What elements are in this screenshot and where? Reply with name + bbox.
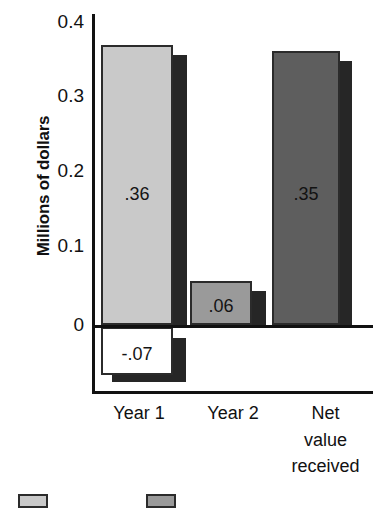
legend-swatch-icon-0	[18, 494, 48, 508]
bar-face-year-2: .06	[190, 281, 252, 325]
bar-label-year-2-positive: .06	[192, 297, 250, 315]
y-tick-label-0: 0	[30, 315, 84, 334]
bar-net-value-positive: .35	[272, 51, 350, 328]
plot-bottom-border	[92, 391, 373, 394]
bar-face-year-1: .36	[101, 45, 173, 325]
bar-face-net-value: .35	[272, 51, 340, 325]
y-axis-line	[92, 14, 95, 394]
bar-label-net-value-positive: .35	[274, 185, 338, 203]
y-tick-label-0.2: 0.2	[30, 161, 84, 180]
bar-year-1-positive: .36	[101, 45, 177, 328]
x-label-net-value-line-2: value	[278, 429, 373, 452]
legend-swatch-icon-1	[146, 494, 176, 508]
bar-year-1-negative: -.07	[101, 327, 177, 385]
x-label-year-1: Year 1	[92, 402, 186, 425]
bar-face-year-1-negative: -.07	[101, 327, 173, 375]
y-tick-label-0.3: 0.3	[30, 86, 84, 105]
plot-area: .36 .06 .35 -.07	[92, 14, 373, 394]
zero-baseline	[92, 325, 373, 328]
x-label-net-value-line-3: received	[278, 455, 373, 478]
bar-label-year-1-positive: .36	[103, 185, 171, 203]
x-axis-labels: Year 1 Year 2 Net value received	[92, 402, 373, 492]
x-label-net-value-line-1: Net	[278, 402, 373, 425]
y-axis-tick-labels: 0.4 0.3 0.2 0.1 0	[22, 0, 84, 508]
bar-year-2-positive: .06	[190, 281, 260, 328]
x-label-net-value-received: Net value received	[278, 402, 373, 478]
chart-legend	[0, 494, 372, 508]
x-label-year-2: Year 2	[188, 402, 278, 425]
bar-label-year-1-negative: -.07	[103, 345, 171, 363]
y-tick-label-0.1: 0.1	[30, 236, 84, 255]
y-tick-label-0.4: 0.4	[30, 12, 84, 31]
